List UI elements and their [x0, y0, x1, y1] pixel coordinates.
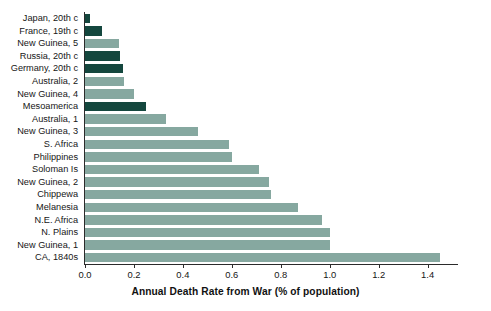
bar-row: [85, 37, 457, 50]
y-axis-label: Russia, 20th c: [20, 50, 78, 63]
y-axis-category-labels: Japan, 20th cFrance, 19th cNew Guinea, 5…: [0, 12, 82, 264]
y-axis-label: Philippines: [34, 151, 78, 164]
bar: [85, 39, 119, 48]
bar: [85, 253, 440, 262]
y-axis-label: Mesoamerica: [23, 100, 78, 113]
bar: [85, 190, 271, 199]
bar: [85, 89, 134, 98]
bar: [85, 51, 120, 60]
y-axis-label: S. Africa: [44, 138, 78, 151]
x-axis-title: Annual Death Rate from War (% of populat…: [0, 286, 491, 297]
x-tick-mark: [379, 264, 380, 268]
bar-row: [85, 125, 457, 138]
bar: [85, 64, 123, 73]
y-axis-label: N. Plains: [41, 226, 78, 239]
bar-rows: [85, 12, 457, 264]
bar-row: [85, 251, 457, 264]
x-tick-mark: [232, 264, 233, 268]
x-tick-label: 1.4: [421, 269, 434, 280]
y-axis-label: Germany, 20th c: [11, 62, 78, 75]
bar-chart: Japan, 20th cFrance, 19th cNew Guinea, 5…: [0, 0, 491, 311]
y-axis-label: New Guinea, 5: [17, 37, 78, 50]
bar-row: [85, 188, 457, 201]
bar: [85, 140, 229, 149]
y-axis-label: New Guinea, 4: [17, 88, 78, 101]
bar-row: [85, 25, 457, 38]
x-tick-mark: [428, 264, 429, 268]
x-tick-label: 1.2: [372, 269, 385, 280]
bar-row: [85, 226, 457, 239]
bar-row: [85, 12, 457, 25]
bar-row: [85, 138, 457, 151]
y-axis-label: N.E. Africa: [35, 214, 78, 227]
bar: [85, 165, 259, 174]
bar-row: [85, 239, 457, 252]
bar-row: [85, 50, 457, 63]
y-axis-label: Soloman Is: [32, 163, 78, 176]
bar: [85, 177, 269, 186]
x-tick-label: 0.2: [127, 269, 140, 280]
bar: [85, 240, 330, 249]
bar-row: [85, 113, 457, 126]
bar-row: [85, 176, 457, 189]
x-tick-label: 0.8: [274, 269, 287, 280]
bar-row: [85, 151, 457, 164]
bar-row: [85, 88, 457, 101]
y-axis-label: Australia, 2: [32, 75, 78, 88]
bar: [85, 127, 198, 136]
bar: [85, 114, 166, 123]
bar: [85, 215, 322, 224]
bar-row: [85, 214, 457, 227]
x-tick-mark: [134, 264, 135, 268]
x-tick-mark: [183, 264, 184, 268]
y-axis-label: New Guinea, 2: [17, 176, 78, 189]
y-axis-label: New Guinea, 1: [17, 239, 78, 252]
y-axis-label: CA, 1840s: [35, 251, 78, 264]
y-axis-label: New Guinea, 3: [17, 125, 78, 138]
y-axis-label: Melanesia: [36, 201, 78, 214]
bar-row: [85, 75, 457, 88]
bar-row: [85, 62, 457, 75]
bar: [85, 14, 90, 23]
y-axis-label: Japan, 20th c: [23, 12, 78, 25]
bar: [85, 77, 124, 86]
x-tick-label: 0.0: [78, 269, 91, 280]
bar: [85, 228, 330, 237]
x-tick-mark: [281, 264, 282, 268]
x-tick-label: 0.4: [176, 269, 189, 280]
x-tick-mark: [330, 264, 331, 268]
x-tick-label: 0.6: [225, 269, 238, 280]
bar-row: [85, 163, 457, 176]
y-axis-label: Australia, 1: [32, 113, 78, 126]
bar: [85, 102, 146, 111]
y-axis-label: Chippewa: [37, 188, 78, 201]
plot-area: [85, 12, 457, 264]
bar: [85, 26, 102, 35]
x-tick-mark: [85, 264, 86, 268]
x-tick-label: 1.0: [323, 269, 336, 280]
x-axis-ticks: 0.00.20.40.60.81.01.21.4: [85, 264, 457, 286]
bar: [85, 152, 232, 161]
bar-row: [85, 100, 457, 113]
bar: [85, 203, 298, 212]
bar-row: [85, 201, 457, 214]
y-axis-label: France, 19th c: [19, 25, 78, 38]
